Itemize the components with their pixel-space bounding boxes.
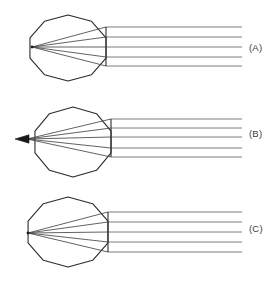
panel-label-1: (A) [249, 42, 262, 53]
refracted-ray-1 [32, 27, 106, 47]
refracted-ray-2 [28, 222, 108, 233]
panel-label-3: (C) [249, 223, 263, 234]
panels-group: (A)(B)(C) [15, 15, 263, 267]
refracted-ray-4 [27, 139, 111, 148]
focal-point-dot [31, 46, 34, 49]
refracted-ray-1 [28, 212, 108, 233]
refracted-ray-4 [28, 233, 108, 242]
eye-panel-1: (A) [30, 15, 262, 81]
eye-outline-polygon [35, 107, 111, 177]
eye-panel-3: (C) [27, 197, 263, 267]
refracted-ray-3 [28, 232, 108, 233]
eye-refraction-diagram: Eye refraction ray diagram Three labeled… [0, 0, 278, 284]
refracted-ray-1 [27, 119, 111, 139]
diagram-canvas: Eye refraction ray diagram Three labeled… [0, 0, 278, 284]
refracted-ray-5 [32, 47, 106, 66]
refracted-ray-2 [32, 37, 106, 47]
refracted-ray-5 [27, 139, 111, 157]
focal-point-wedge [15, 135, 29, 143]
focal-point-dot [27, 232, 30, 235]
panel-label-2: (B) [249, 128, 262, 139]
refracted-ray-4 [32, 47, 106, 57]
refracted-ray-5 [28, 233, 108, 252]
eye-panel-2: (B) [15, 107, 262, 177]
